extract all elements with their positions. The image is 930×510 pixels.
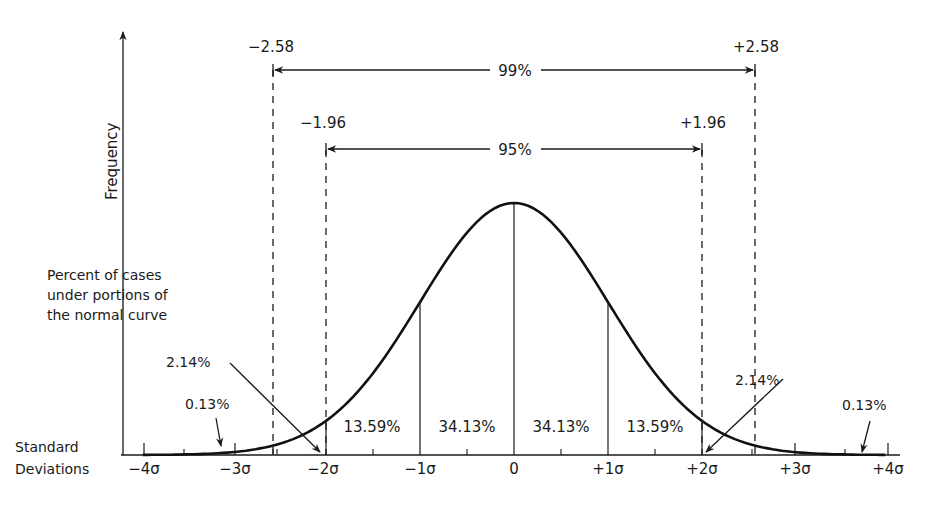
region-left-0-1: 34.13% [438,418,495,436]
region-left-2-3: 2.14% [166,354,210,370]
region-right-1-2: 13.59% [626,418,683,436]
region-left-1-2: 13.59% [343,418,400,436]
z99-right-label: +2.58 [733,38,779,56]
svg-text:−2σ: −2σ [307,460,339,478]
interval-95: 95% [326,141,702,159]
normal-distribution-diagram: Frequency 99% −2.58 +2.58 [0,0,930,510]
caption-sd-line2: Deviations [15,461,89,477]
span-99-label: 99% [498,62,531,80]
svg-text:+3σ: +3σ [779,460,811,478]
region-right-tail: 0.13% [842,397,886,413]
caption-percent-line3: the normal curve [47,307,167,323]
z99-left-label: −2.58 [248,38,294,56]
region-right-2-3: 2.14% [735,372,779,388]
z95-right-label: +1.96 [680,114,726,132]
caption-sd-line1: Standard [15,439,79,455]
tick-labels: −4σ −3σ −2σ −1σ 0 +1σ +2σ +3σ +4σ [128,460,904,478]
svg-text:0: 0 [509,460,519,478]
region-right-0-1: 34.13% [532,418,589,436]
caption-percent-line2: under portions of [47,287,169,303]
svg-text:−1σ: −1σ [404,460,436,478]
region-left-tail: 0.13% [185,396,229,412]
z95-left-label: −1.96 [300,114,346,132]
caption-percent-line1: Percent of cases [47,267,162,283]
svg-text:−3σ: −3σ [219,460,251,478]
svg-text:+1σ: +1σ [592,460,624,478]
span-95-label: 95% [498,141,531,159]
interval-99: 99% [273,62,755,80]
svg-text:+2σ: +2σ [686,460,718,478]
svg-text:+4σ: +4σ [872,460,904,478]
svg-text:−4σ: −4σ [128,460,160,478]
y-axis-label: Frequency [103,122,121,200]
